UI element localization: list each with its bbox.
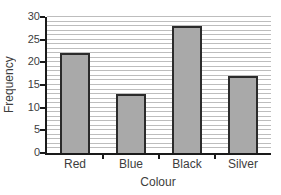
bar-slot-blue <box>103 17 159 153</box>
plot-area <box>45 17 271 155</box>
bar-silver <box>228 76 258 153</box>
bar-black <box>172 26 202 153</box>
x-tick-label-silver: Silver <box>215 157 271 171</box>
y-tick-label-25: 25 <box>0 33 40 46</box>
x-axis-title: Colour <box>45 175 271 190</box>
x-tick-mark <box>158 155 160 159</box>
frequency-bar-chart: Frequency 051015202530 RedBlueBlackSilve… <box>0 0 281 195</box>
y-tick-mark <box>40 152 45 154</box>
y-tick-mark <box>40 129 45 131</box>
x-tick-label-red: Red <box>47 157 103 171</box>
x-tick-label-blue: Blue <box>103 157 159 171</box>
y-tick-mark <box>40 84 45 86</box>
y-tick-label-30: 30 <box>0 10 40 23</box>
y-tick-mark <box>40 107 45 109</box>
y-tick-label-5: 5 <box>0 123 40 136</box>
x-tick-label-black: Black <box>159 157 215 171</box>
bar-slot-silver <box>215 17 271 153</box>
y-tick-label-10: 10 <box>0 101 40 114</box>
y-tick-label-20: 20 <box>0 55 40 68</box>
y-tick-label-15: 15 <box>0 78 40 91</box>
y-tick-mark <box>40 39 45 41</box>
x-tick-mark <box>214 155 216 159</box>
bar-blue <box>116 94 146 153</box>
bar-red <box>60 53 90 153</box>
y-tick-mark <box>40 61 45 63</box>
y-tick-label-0: 0 <box>0 146 40 159</box>
bar-slot-red <box>47 17 103 153</box>
y-tick-mark <box>40 16 45 18</box>
x-tick-mark <box>102 155 104 159</box>
bar-slot-black <box>159 17 215 153</box>
